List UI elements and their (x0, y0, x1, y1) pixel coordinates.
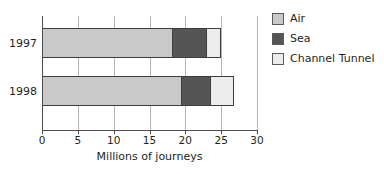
legend-item-air[interactable]: Air (272, 12, 374, 25)
bar-segment-sea-1998[interactable] (181, 77, 210, 105)
bar-segment-channel-tunnel-1998[interactable] (210, 77, 233, 105)
legend-swatch-air (272, 13, 284, 25)
x-tick-label-0: 0 (30, 134, 54, 146)
bar-row[interactable]: 1997 (42, 28, 221, 58)
category-label-1997: 1997 (9, 37, 37, 50)
x-axis-title: Millions of journeys (42, 150, 257, 163)
x-tick-label-15: 15 (138, 134, 162, 146)
legend-item-sea[interactable]: Sea (272, 32, 374, 45)
bar-segment-sea-1997[interactable] (172, 29, 206, 57)
gridline-25 (221, 16, 222, 130)
bar-segment-channel-tunnel-1997[interactable] (206, 29, 220, 57)
x-tick-label-10: 10 (102, 134, 126, 146)
y-axis-line (42, 16, 43, 134)
category-label-1998: 1998 (9, 85, 37, 98)
chart-legend: Air Sea Channel Tunnel (272, 12, 374, 65)
bar-segment-air-1998[interactable] (43, 77, 181, 105)
legend-swatch-sea (272, 33, 284, 45)
legend-swatch-channel-tunnel (272, 53, 284, 65)
bar-segment-air-1997[interactable] (43, 29, 172, 57)
legend-label-sea: Sea (290, 32, 311, 45)
legend-label-channel-tunnel: Channel Tunnel (290, 52, 374, 65)
gridline-30 (257, 16, 258, 130)
x-tick-label-25: 25 (209, 134, 233, 146)
x-tick-label-30: 30 (245, 134, 269, 146)
legend-label-air: Air (290, 12, 305, 25)
bar-row[interactable]: 1998 (42, 76, 234, 106)
x-tick-label-20: 20 (173, 134, 197, 146)
plot-area: 1997 1998 (42, 16, 257, 130)
legend-item-channel-tunnel[interactable]: Channel Tunnel (272, 52, 374, 65)
x-tick-label-5: 5 (66, 134, 90, 146)
stacked-bar-chart: 1997 1998 0 5 10 15 20 25 30 Millions of… (0, 0, 384, 174)
